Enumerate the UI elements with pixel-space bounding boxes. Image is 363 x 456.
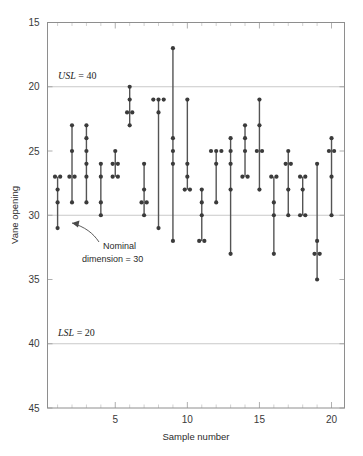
data-point [128,123,132,127]
x-axis-title: Sample number [162,431,229,442]
data-point [257,98,261,102]
data-point [171,239,175,243]
data-point [84,175,88,179]
x-tick-label-5: 5 [112,414,118,425]
y-tick-label-40: 20 [28,81,40,92]
data-point [139,200,143,204]
vane-opening-chart-figure: 45403530252015 5101520 Vane opening Samp… [0,0,363,456]
data-point [229,149,233,153]
data-point [298,175,302,179]
x-tick-label-10: 10 [182,414,194,425]
data-point [255,149,259,153]
data-point [128,98,132,102]
data-point [142,213,146,217]
data-point [246,175,250,179]
data-point [219,149,223,153]
y-tick-label-20: 40 [28,338,40,349]
data-point [99,162,103,166]
data-point [116,175,120,179]
data-point [229,252,233,256]
data-point [156,98,160,102]
data-point [145,200,149,204]
data-point [99,200,103,204]
data-point [142,187,146,191]
data-point [185,175,189,179]
y-tick-label-30: 30 [28,210,40,221]
y-tick-label-35: 25 [28,146,40,157]
data-point [73,175,77,179]
data-point [229,162,233,166]
data-point [171,162,175,166]
data-point [298,213,302,217]
data-point [332,149,336,153]
data-point [70,123,74,127]
data-point [318,252,322,256]
data-point [257,123,261,127]
data-point [286,213,290,217]
data-point [327,149,331,153]
data-point [214,149,218,153]
data-point [200,187,204,191]
data-point [240,175,244,179]
data-point [183,187,187,191]
data-point [269,175,273,179]
data-point [70,149,74,153]
data-point [113,149,117,153]
data-point [286,187,290,191]
x-tick-label-20: 20 [326,414,338,425]
data-point [303,213,307,217]
data-point [84,200,88,204]
data-point [128,85,132,89]
data-point [111,175,115,179]
data-point [284,162,288,166]
usl-label-italic: USL [58,70,76,81]
data-point [315,239,319,243]
data-point [156,226,160,230]
data-point [243,149,247,153]
data-point [55,200,59,204]
data-point [171,136,175,140]
data-point [272,213,276,217]
data-point [229,187,233,191]
data-point [329,213,333,217]
data-point [99,213,103,217]
data-point [67,175,71,179]
data-point [116,162,120,166]
data-point [329,175,333,179]
data-point [301,187,305,191]
data-point [171,149,175,153]
data-point [274,175,278,179]
data-point [315,162,319,166]
data-point [84,136,88,140]
data-point [200,213,204,217]
y-tick-label-45: 15 [28,17,40,28]
data-point [84,149,88,153]
figure-background [0,0,363,456]
data-point [272,252,276,256]
data-point [303,175,307,179]
data-point [55,226,59,230]
data-point [202,239,206,243]
data-point [286,149,290,153]
data-point [197,239,201,243]
data-point [214,200,218,204]
data-point [272,200,276,204]
data-point [188,187,192,191]
x-tick-label-15: 15 [254,414,266,425]
data-point [130,110,134,114]
data-point [200,200,204,204]
data-point [162,98,166,102]
data-point [257,187,261,191]
data-point [125,110,129,114]
data-point [58,175,62,179]
data-point [229,136,233,140]
usl-label: USL = 40 [58,70,96,81]
nominal-annotation-line2: dimension = 30 [82,254,143,264]
lsl-label-value: = 20 [74,327,95,338]
data-point [312,252,316,256]
data-point [171,46,175,50]
data-point [53,175,57,179]
data-point [185,162,189,166]
y-tick-label-15: 45 [28,403,40,414]
data-point [243,123,247,127]
